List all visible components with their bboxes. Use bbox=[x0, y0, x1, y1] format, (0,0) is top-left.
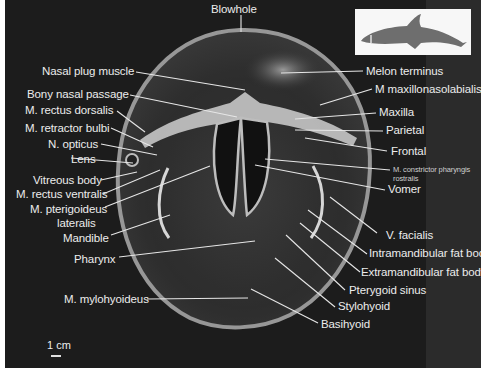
label-vomer: Vomer bbox=[388, 183, 421, 196]
label-vitreous-body: Vitreous body bbox=[33, 174, 102, 187]
label-pharynx: Pharynx bbox=[74, 253, 116, 266]
label-m-rectus-ventralis: M. rectus ventralis bbox=[16, 188, 107, 201]
label-maxilla: Maxilla bbox=[379, 106, 414, 119]
dolphin-inset bbox=[355, 9, 471, 55]
label-frontal: Frontal bbox=[391, 145, 426, 158]
label-blowhole: Blowhole bbox=[211, 3, 257, 16]
label-m-rectus-dorsalis: M. rectus dorsalis bbox=[25, 104, 113, 117]
label-m-mylohyoideus: M. mylohyoideus bbox=[64, 293, 149, 306]
label-stylohyoid: Stylohyoid bbox=[338, 300, 390, 313]
label-lateralis: lateralis bbox=[57, 217, 96, 230]
melon bbox=[243, 48, 323, 92]
label-rostralis: rostralis bbox=[393, 174, 418, 183]
label-pterygoid-sinus: Pterygoid sinus bbox=[349, 284, 426, 297]
label-melon-terminus: Melon terminus bbox=[366, 65, 443, 78]
scale-bar bbox=[51, 355, 61, 357]
eye-lens bbox=[126, 154, 138, 166]
label-parietal: Parietal bbox=[386, 124, 424, 137]
label-lens: Lens bbox=[71, 153, 96, 166]
label-nasal-plug-muscle: Nasal plug muscle bbox=[42, 65, 134, 78]
label-m-maxillonasolabialis: M maxillonasolabialis bbox=[375, 83, 481, 96]
label-n-opticus: N. opticus bbox=[48, 138, 98, 151]
label-m-constrictor-pharyngis: M. constrictor pharyngis bbox=[393, 165, 470, 174]
figure-panel: Blowhole Nasal plug muscle Bony nasal pa… bbox=[5, 0, 481, 368]
label-mandible: Mandible bbox=[63, 232, 109, 245]
label-m-pterigoideus: M. pterigoideus bbox=[30, 203, 107, 216]
scale-bar-label: 1 cm bbox=[47, 339, 71, 351]
label-extramandibular-fat-body: Extramandibular fat body bbox=[361, 266, 481, 279]
label-bony-nasal-passage: Bony nasal passage bbox=[27, 88, 129, 101]
label-v-facialis: V. facialis bbox=[386, 229, 433, 242]
label-basihyoid: Basihyoid bbox=[321, 318, 370, 331]
dolphin-silhouette-icon bbox=[355, 9, 471, 55]
label-m-retractor-bulbi: M. retractor bulbi bbox=[25, 122, 109, 135]
label-intramandibular-fat-body: Intramandibular fat body bbox=[369, 247, 481, 260]
